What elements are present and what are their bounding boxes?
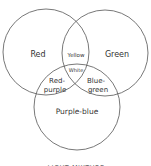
label-blue-green-1: Blue- (87, 77, 105, 85)
label-green: Green (105, 50, 129, 59)
label-red-purple-2: purple (44, 86, 66, 94)
label-red-purple-1: Red- (49, 77, 65, 85)
label-red: Red (30, 50, 45, 59)
label-white: White (69, 67, 84, 73)
light-mixture-venn-diagram: Red Green Purple-blue Yellow White Red- … (0, 0, 151, 166)
caption: LIGHT MIXTURE (47, 164, 104, 166)
label-blue-green-2: green (88, 86, 108, 94)
label-yellow: Yellow (67, 52, 85, 58)
label-purple-blue: Purple-blue (56, 107, 99, 116)
